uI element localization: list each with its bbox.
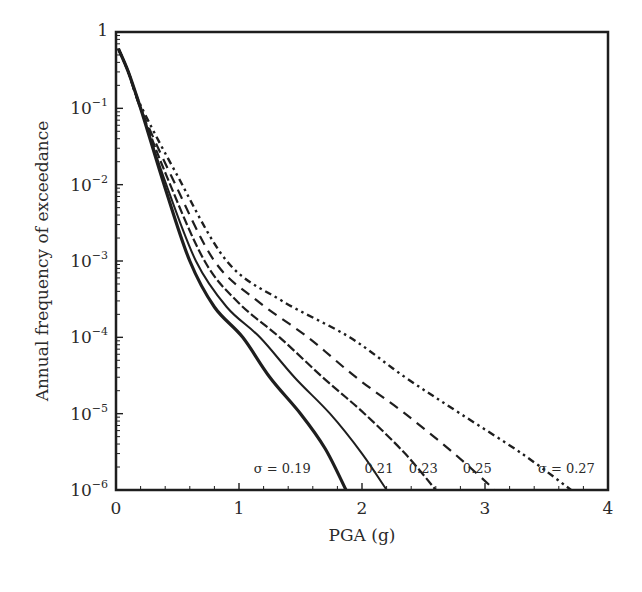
sigma-label: 0.23: [409, 461, 438, 476]
sigma-label: 0.25: [463, 461, 492, 476]
y-tick-label: 10−2: [70, 173, 108, 195]
x-axis: 01234: [111, 483, 614, 518]
sigma-label: 0.21: [364, 461, 393, 476]
curve-sigma-027: [119, 49, 572, 490]
y-tick-label: 10−6: [70, 478, 108, 500]
y-tick-label: 10−5: [70, 402, 108, 424]
y-tick-label: 1: [97, 20, 108, 40]
y-tick-label: 10−4: [70, 325, 108, 347]
x-tick-label: 0: [111, 498, 122, 518]
exceedance-chart: 10−610−510−410−310−210−11 01234 σ = 0.19…: [0, 0, 642, 592]
curve-annotations: σ = 0.190.210.230.25σ = 0.27: [254, 461, 595, 476]
curve-sigma-019: [119, 49, 347, 490]
y-axis-title: Annual frequency of exceedance: [32, 121, 52, 403]
curve-sigma-021: [119, 49, 387, 490]
y-tick-label: 10−1: [70, 96, 108, 118]
curves: [119, 49, 572, 490]
x-axis-title: PGA (g): [329, 525, 396, 545]
x-tick-label: 3: [480, 498, 491, 518]
x-tick-label: 1: [234, 498, 245, 518]
curve-sigma-023: [119, 49, 436, 490]
x-tick-label: 2: [357, 498, 368, 518]
sigma-label: σ = 0.19: [254, 461, 311, 476]
x-tick-label: 4: [603, 498, 614, 518]
sigma-label: σ = 0.27: [538, 461, 595, 476]
y-tick-label: 10−3: [70, 249, 108, 271]
